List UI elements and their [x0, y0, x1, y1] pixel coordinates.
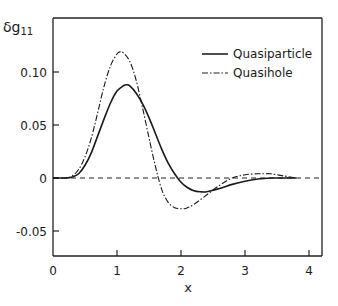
x-tick-label: 1: [113, 264, 121, 278]
legend: Quasiparticle Quasihole: [202, 47, 312, 80]
x-axis-label: x: [184, 280, 192, 295]
y-tick-label: -0.05: [16, 225, 47, 239]
x-tick-label: 2: [177, 264, 185, 278]
x-tick-label: 0: [49, 264, 57, 278]
legend-label-quasiparticle: Quasiparticle: [233, 47, 312, 61]
legend-label-quasihole: Quasihole: [233, 66, 293, 80]
chart-svg: 0.100.050-0.05 01234 δg11 x Quasiparticl…: [0, 0, 338, 306]
legend-item-quasihole: Quasihole: [202, 66, 293, 80]
y-tick-label: 0: [39, 172, 47, 186]
y-tick-label: 0.10: [20, 66, 47, 80]
x-tick-label: 4: [305, 264, 313, 278]
x-tick-label: 3: [241, 264, 249, 278]
x-axis-ticks: 01234: [49, 250, 313, 278]
y-tick-label: 0.05: [20, 119, 47, 133]
legend-item-quasiparticle: Quasiparticle: [202, 47, 312, 61]
series-line-quasiparticle: [53, 85, 296, 192]
y-axis-label: δg11: [3, 19, 33, 37]
